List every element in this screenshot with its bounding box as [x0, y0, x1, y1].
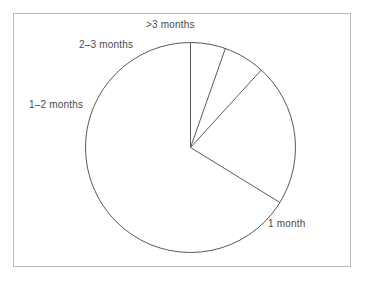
- pie-chart-figure: >3 months 2–3 months 1–2 months 1 month: [0, 0, 367, 284]
- slice-label-greater-than-three-months: >3 months: [146, 19, 195, 30]
- pie-divider-1: [191, 148, 280, 203]
- slice-label-one-month: 1 month: [268, 218, 306, 229]
- slice-label-one-to-two-months: 1–2 months: [29, 99, 83, 110]
- pie-chart-graphic: [0, 0, 367, 284]
- pie-divider-2: [191, 70, 262, 148]
- pie-divider-lines: [191, 43, 280, 203]
- slice-label-two-to-three-months: 2–3 months: [79, 39, 133, 50]
- pie-divider-3: [191, 48, 226, 147]
